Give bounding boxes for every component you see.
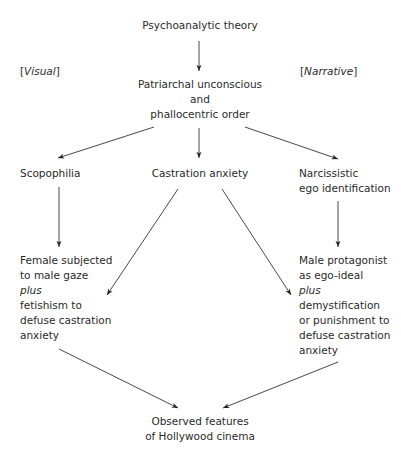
node-male-protagonist: Male protagonist as ego-ideal plus demys… <box>299 253 390 358</box>
node-text: Scopophilia <box>20 167 80 179</box>
arrow-male-to-observed <box>223 362 338 408</box>
node-scopophilia: Scopophilia <box>20 166 80 181</box>
arrow-female-to-observed <box>59 349 178 408</box>
node-line: Narcissistic <box>299 166 391 181</box>
node-line: Patriarchal unconscious <box>125 77 275 92</box>
node-line-plus: plus <box>299 283 390 298</box>
node-line-plus: plus <box>20 283 113 298</box>
arrow-castration-to-female <box>107 189 178 295</box>
bracket-close: ] <box>353 65 357 77</box>
node-line: demystification <box>299 298 390 313</box>
node-line: Female subjected <box>20 253 113 268</box>
arrow-castration-to-male <box>222 189 291 295</box>
node-line: or punishment to <box>299 313 390 328</box>
node-line: Male protagonist <box>299 253 390 268</box>
node-narcissistic-ego-identification: Narcissistic ego identification <box>299 166 391 196</box>
node-observed-features: Observed features of Hollywood cinema <box>130 414 270 444</box>
node-female-subjected: Female subjected to male gaze plus fetis… <box>20 253 113 343</box>
narrative-label-text: Narrative <box>304 65 353 77</box>
node-line: defuse castration <box>20 313 113 328</box>
node-line: phallocentric order <box>125 107 275 122</box>
psychoanalytic-flow-diagram: Psychoanalytic theory [Visual] [Narrativ… <box>0 0 401 456</box>
node-line: to male gaze <box>20 268 113 283</box>
label-visual: [Visual] <box>20 64 60 79</box>
node-line: defuse castration <box>299 328 390 343</box>
node-line: of Hollywood cinema <box>130 429 270 444</box>
bracket-close: ] <box>56 65 60 77</box>
node-castration-anxiety: Castration anxiety <box>140 166 260 181</box>
arrow-patriarchal-to-narcissistic <box>245 127 338 159</box>
visual-label-text: Visual <box>24 65 56 77</box>
node-line: Observed features <box>130 414 270 429</box>
label-narrative: [Narrative] <box>300 64 357 79</box>
node-line: anxiety <box>20 328 113 343</box>
arrow-patriarchal-to-scopophilia <box>58 127 154 158</box>
node-line: fetishism to <box>20 298 113 313</box>
node-psychoanalytic-theory: Psychoanalytic theory <box>130 18 270 33</box>
node-line: ego identification <box>299 181 391 196</box>
node-text: Castration anxiety <box>152 167 249 179</box>
node-text: Psychoanalytic theory <box>142 19 258 31</box>
node-patriarchal-unconscious: Patriarchal unconscious and phallocentri… <box>125 77 275 122</box>
node-line: as ego-ideal <box>299 268 390 283</box>
node-line: and <box>125 92 275 107</box>
node-line: anxiety <box>299 343 390 358</box>
